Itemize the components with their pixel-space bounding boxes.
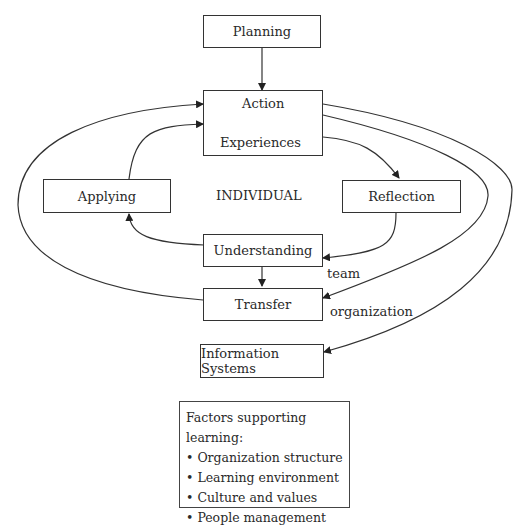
factors-title: Factors supporting learning: — [186, 408, 343, 448]
factor-item: Learning environment — [186, 468, 343, 488]
planning-label: Planning — [233, 24, 291, 39]
arrow-action-to-reflection — [323, 137, 399, 178]
team-label: team — [327, 266, 360, 281]
transfer-box: Transfer — [203, 288, 323, 321]
factors-list: Organization structure Learning environm… — [186, 448, 343, 528]
information-systems-box: Information Systems — [200, 344, 324, 378]
planning-box: Planning — [203, 15, 321, 48]
factors-supporting-learning-box: Factors supporting learning: Organizatio… — [179, 401, 350, 508]
reflection-box: Reflection — [342, 180, 461, 213]
understanding-box: Understanding — [203, 234, 323, 267]
individual-label: INDIVIDUAL — [216, 188, 302, 203]
applying-label: Applying — [78, 189, 136, 204]
arrow-understanding-to-applying — [129, 214, 204, 245]
action-label: Action — [242, 96, 284, 111]
factor-item: People management — [186, 508, 343, 528]
reflection-label: Reflection — [368, 189, 435, 204]
arrow-reflection-to-understanding — [323, 213, 396, 258]
organization-label: organization — [330, 304, 413, 319]
applying-box: Applying — [43, 179, 171, 213]
factor-item: Organization structure — [186, 448, 343, 468]
understanding-label: Understanding — [214, 243, 313, 258]
arrow-applying-to-action — [129, 124, 203, 179]
experiences-label: Experiences — [220, 135, 301, 150]
action-experiences-box: Action Experiences — [203, 90, 323, 156]
transfer-label: Transfer — [235, 297, 291, 312]
factor-item: Culture and values — [186, 488, 343, 508]
information-systems-label: Information Systems — [201, 346, 323, 376]
